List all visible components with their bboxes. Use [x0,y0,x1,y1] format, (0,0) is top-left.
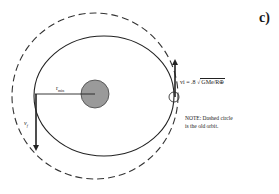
note-line-1: NOTE: Dashed circle [185,114,233,122]
v-i-equation: vi = .8 √GMe/R⊕ [180,78,225,85]
r-min-label: rmin [56,85,64,93]
v-i-prefix: vi = .8 [180,79,196,85]
orbit-diagram [0,0,279,194]
r-min-subscript: min [58,88,64,93]
note-text: NOTE: Dashed circle is the old orbit. [185,114,233,130]
v-i-radicand: GMe/R⊕ [200,78,225,85]
v-f-label: vf [24,120,28,128]
part-label: c) [259,10,270,26]
note-line-2: is the old orbit. [185,122,233,130]
v-f-subscript: f [27,123,28,128]
